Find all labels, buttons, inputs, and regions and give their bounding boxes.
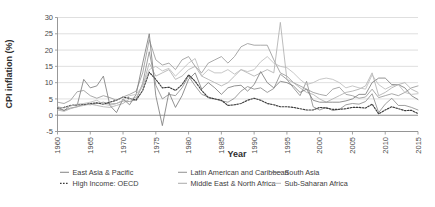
y-tick-label: 20 (45, 46, 53, 55)
cpi-inflation-chart: -5051015202530 1960196519701975198019851… (0, 0, 435, 207)
y-tick-label: 25 (45, 29, 53, 38)
y-tick-labels: -5051015202530 (45, 13, 53, 136)
y-tick-label: 0 (49, 111, 53, 120)
x-tick-label: 2005 (348, 137, 357, 154)
series-line-5 (58, 57, 419, 108)
x-tick-label: 2010 (381, 137, 390, 154)
x-tick-label: 1990 (250, 137, 259, 154)
y-tick-label: 10 (45, 78, 53, 87)
chart-legend: East Asia & PacificHigh Income: OECDLati… (60, 168, 349, 188)
legend-label-0: East Asia & Pacific (73, 168, 134, 177)
series-line-4 (58, 34, 419, 126)
x-tick-label: 1985 (217, 137, 226, 154)
x-tick-label: 1995 (283, 137, 292, 154)
x-axis-title: Year (227, 149, 247, 159)
y-tick-label: 5 (49, 95, 53, 104)
y-axis (55, 18, 58, 132)
data-series-group (58, 22, 419, 125)
x-tick-label: 1960 (53, 137, 62, 154)
y-tick-label: 15 (45, 62, 53, 71)
y-tick-label: 30 (45, 13, 53, 22)
legend-label-3: Middle East & North Africa (191, 179, 277, 188)
x-tick-label: 1975 (152, 137, 161, 154)
legend-label-4: South Asia (285, 168, 321, 177)
x-tick-label: 1965 (86, 137, 95, 154)
chart-canvas: -5051015202530 1960196519701975198019851… (0, 0, 435, 207)
x-tick-label: 1970 (119, 137, 128, 154)
legend-label-5: Sub-Saharan Africa (285, 179, 349, 188)
y-axis-title: CPI inflation (%) (4, 40, 14, 109)
x-tick-label: 2015 (414, 137, 423, 154)
legend-label-1: High Income: OECD (73, 179, 139, 188)
gridlines (58, 18, 419, 132)
x-tick-label: 2000 (315, 137, 324, 154)
x-tick-label: 1980 (184, 137, 193, 154)
series-line-0 (58, 52, 419, 113)
x-axis (58, 115, 419, 134)
y-tick-label: -5 (46, 127, 53, 136)
